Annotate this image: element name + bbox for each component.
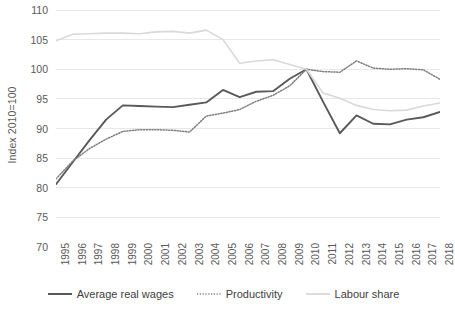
y-tick-label: 85 [36, 152, 48, 164]
x-tick-label: 2016 [411, 243, 422, 265]
plot-canvas [56, 10, 440, 247]
series-line-average-real-wages [56, 69, 440, 184]
legend-label: Labour share [335, 288, 400, 300]
x-tick-label: 1996 [77, 243, 88, 265]
x-tick-label: 2002 [177, 243, 188, 265]
x-tick-label: 2011 [327, 243, 338, 265]
y-tick-label: 100 [30, 63, 48, 75]
x-tick-label: 2003 [194, 243, 205, 265]
x-tick-label: 2001 [160, 243, 171, 265]
x-tick-label: 2006 [244, 243, 255, 265]
x-axis-tick-labels: 1995199619971998199920002001200220032004… [56, 243, 440, 281]
x-tick-label: 2013 [361, 243, 372, 265]
y-axis-title-label: Index 2010=100 [5, 86, 17, 163]
x-tick-label: 2018 [444, 243, 455, 265]
x-tick-label: 1995 [60, 243, 71, 265]
y-tick-label: 95 [36, 93, 48, 105]
x-tick-label: 1997 [93, 243, 104, 265]
y-tick-label: 75 [36, 211, 48, 223]
series-line-productivity [56, 61, 440, 179]
plot-area [56, 10, 440, 247]
x-tick-label: 2015 [394, 243, 405, 265]
x-tick-label: 2009 [294, 243, 305, 265]
data-series-group [56, 30, 440, 184]
solid-line-swatch [47, 289, 73, 299]
legend-label: Average real wages [77, 288, 174, 300]
y-tick-label: 105 [30, 34, 48, 46]
y-axis-tick-labels: 707580859095100105110 [20, 0, 52, 250]
legend-item[interactable]: Productivity [196, 288, 283, 300]
y-tick-label: 90 [36, 123, 48, 135]
x-tick-label: 2000 [143, 243, 154, 265]
y-axis-title: Index 2010=100 [0, 0, 22, 250]
legend-item[interactable]: Average real wages [47, 288, 174, 300]
dotted-line-swatch [196, 289, 222, 299]
legend-label: Productivity [226, 288, 283, 300]
y-tick-label: 110 [31, 4, 48, 16]
x-tick-label: 2008 [277, 243, 288, 265]
x-tick-label: 2014 [377, 243, 388, 265]
chart-legend: Average real wagesProductivityLabour sha… [0, 283, 446, 305]
x-tick-label: 2007 [260, 243, 271, 265]
gridlines [56, 10, 440, 247]
x-tick-label: 2012 [344, 243, 355, 265]
x-tick-label: 1999 [127, 243, 138, 265]
y-tick-label: 70 [36, 241, 48, 253]
light-line-swatch [305, 289, 331, 299]
x-tick-label: 2017 [427, 243, 438, 265]
x-tick-label: 2005 [227, 243, 238, 265]
y-tick-label: 80 [36, 182, 48, 194]
legend-item[interactable]: Labour share [305, 288, 400, 300]
x-tick-label: 2004 [210, 243, 221, 265]
x-tick-label: 1998 [110, 243, 121, 265]
x-tick-label: 2010 [310, 243, 321, 265]
